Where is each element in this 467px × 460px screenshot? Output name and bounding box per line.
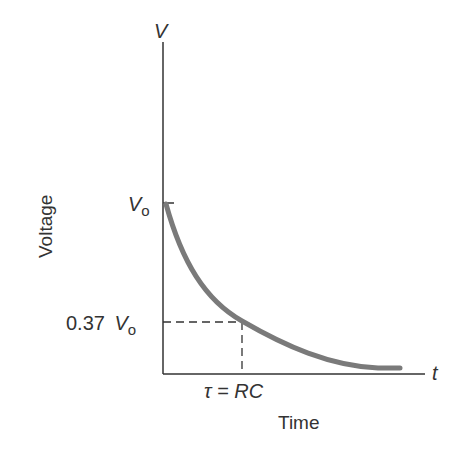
v0-sub: o <box>141 202 149 219</box>
v37-label: 0.37 Vo <box>66 312 136 338</box>
x-axis-symbol: t <box>432 362 439 384</box>
y-axis-symbol: V <box>154 20 169 42</box>
rc-discharge-chart: V t Voltage Time Vo 0.37 Vo τ = RC <box>0 0 467 460</box>
v37-sub: o <box>128 321 136 338</box>
y-axis-label: Voltage <box>35 195 56 258</box>
v37-number: 0.37 <box>66 312 110 334</box>
decay-curve <box>166 204 400 368</box>
tau-label: τ = RC <box>204 380 264 402</box>
x-axis-label: Time <box>278 412 320 433</box>
v0-label: Vo <box>128 193 150 219</box>
